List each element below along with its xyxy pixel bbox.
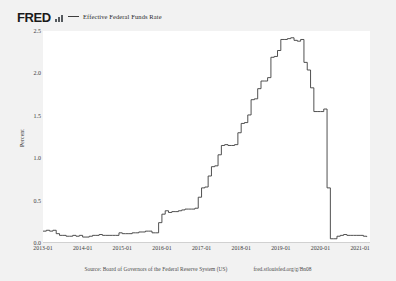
x-tick-label: 2018-01 [221,245,261,252]
x-tick-label: 2013-01 [23,245,63,252]
series-line-chart [43,31,370,243]
y-tick-label: 2.5 [19,28,41,34]
x-tick-label: 2020-01 [300,245,340,252]
bar-chart-icon [55,14,65,22]
chart-legend: Effective Federal Funds Rate [68,13,162,20]
x-tick-label: 2019-01 [261,245,301,252]
y-tick-label: 2.0 [19,70,41,76]
legend-item-label: Effective Federal Funds Rate [83,13,162,20]
chart-header: FRED Effective Federal Funds Rate [0,0,396,30]
x-tick-label: 2015-01 [102,245,142,252]
legend-line-swatch [68,16,79,17]
x-axis: 2013-01 2014-01 2015-01 2016-01 2017-01 … [43,245,370,257]
x-tick-label: 2021-01 [340,245,380,252]
y-axis: 2.5 2.0 1.5 1.0 0.5 0.0 Percent [12,31,41,243]
fred-url[interactable]: fred.stlouisfed.org/g/Bn08 [253,266,311,272]
fred-logo: FRED [17,11,51,24]
chart-footer: Source: Board of Governors of the Federa… [0,257,396,269]
x-tick-label: 2016-01 [142,245,182,252]
plot-area [43,31,370,243]
effective-federal-funds-rate-line [43,38,367,239]
y-axis-title: Percent [19,115,25,161]
fred-chart-figure: FRED Effective Federal Funds Rate 2.5 2.… [0,0,396,281]
source-text: Source: Board of Governors of the Federa… [84,266,227,272]
x-tick-label: 2017-01 [182,245,222,252]
y-tick-label: 0.5 [19,198,41,204]
x-tick-label: 2014-01 [63,245,103,252]
